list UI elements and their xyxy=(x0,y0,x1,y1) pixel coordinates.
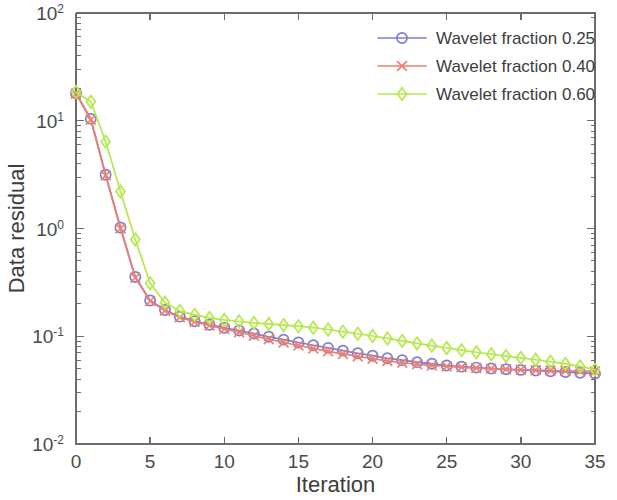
chart-legend: Wavelet fraction 0.25Wavelet fraction 0.… xyxy=(372,20,595,110)
x-tick-label: 5 xyxy=(145,451,156,472)
y-axis-title: Data residual xyxy=(4,164,29,294)
series-line xyxy=(76,93,595,373)
legend-label: Wavelet fraction 0.60 xyxy=(436,85,595,104)
line-chart: 0510152025303510-210-1100101102 Iteratio… xyxy=(0,0,617,500)
y-tick-label: 10-2 xyxy=(32,433,64,455)
x-tick-label: 35 xyxy=(584,451,605,472)
x-tick-label: 15 xyxy=(288,451,309,472)
x-axis-title: Iteration xyxy=(296,472,376,497)
series-1 xyxy=(71,89,600,376)
data-point-marker xyxy=(145,296,155,306)
series-2 xyxy=(72,86,600,376)
y-tick-label: 102 xyxy=(36,2,64,24)
x-tick-label: 30 xyxy=(510,451,531,472)
x-tick-label: 0 xyxy=(71,451,82,472)
legend-label: Wavelet fraction 0.40 xyxy=(436,57,595,76)
x-tick-label: 20 xyxy=(362,451,383,472)
y-tick-label: 10-1 xyxy=(32,325,64,347)
y-tick-label: 100 xyxy=(36,218,64,240)
series-line xyxy=(76,92,595,370)
x-tick-label: 25 xyxy=(436,451,457,472)
data-series-layer xyxy=(71,86,600,379)
x-tick-label: 10 xyxy=(214,451,235,472)
chart-figure: 0510152025303510-210-1100101102 Iteratio… xyxy=(0,0,617,500)
y-tick-label: 101 xyxy=(36,110,64,132)
series-0 xyxy=(71,88,600,379)
legend-label: Wavelet fraction 0.25 xyxy=(436,29,595,48)
